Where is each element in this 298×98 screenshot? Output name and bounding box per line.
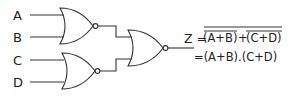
input-label-a: A [13, 9, 22, 22]
equation-line-2: =(A+B).(C+D) [194, 52, 277, 64]
nor-gate-2 [62, 53, 95, 89]
input-label-b: B [13, 31, 22, 44]
equation-term-cd: (C+D) [246, 33, 282, 45]
inverter-bubble-1 [93, 24, 98, 29]
inverter-bubble-3 [163, 46, 168, 51]
wire-g1-g3 [98, 26, 132, 37]
nor-gate-1 [60, 8, 93, 44]
input-label-d: D [13, 76, 23, 89]
inverter-bubble-2 [95, 69, 100, 74]
nor-gate-3 [128, 30, 163, 66]
logic-circuit [0, 0, 298, 98]
equation-term-ab: (A+B) [203, 33, 237, 45]
wire-g2-g3 [100, 59, 132, 71]
input-label-c: C [13, 54, 22, 67]
